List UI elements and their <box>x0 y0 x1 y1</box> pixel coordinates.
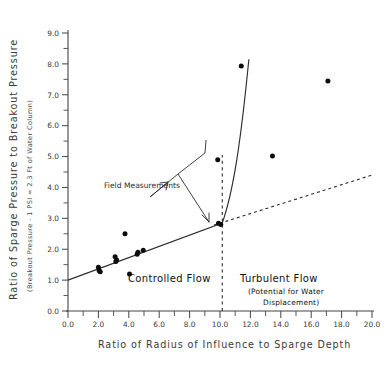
x-axis-title: Ratio of Radius of Influence to Sparge D… <box>98 339 351 350</box>
data-point <box>270 153 275 158</box>
chart-figure: 0.01.02.03.04.05.06.07.08.09.0 0.02.04.0… <box>0 0 386 372</box>
x-tick-label: 10.0 <box>212 320 229 329</box>
data-point <box>325 78 330 83</box>
x-tick-label: 14.0 <box>273 320 290 329</box>
x-tick-label: 12.0 <box>242 320 259 329</box>
x-tick-label: 20.0 <box>364 320 381 329</box>
x-tick-label: 0.0 <box>62 320 74 329</box>
data-point <box>98 269 103 274</box>
data-point <box>218 222 223 227</box>
controlled-flow-label: Controlled Flow <box>128 273 211 284</box>
x-tick-label: 16.0 <box>303 320 320 329</box>
turbulent-flow-sub-2: Displacement) <box>263 298 319 307</box>
x-tick-label: 18.0 <box>333 320 350 329</box>
data-point <box>215 157 220 162</box>
dotted-extension-line <box>214 175 372 225</box>
field-measurements-bracket <box>150 153 205 197</box>
x-axis-ticks <box>68 311 372 318</box>
y-axis-tick-labels: 0.01.02.03.04.05.06.07.08.09.0 <box>47 29 59 316</box>
data-point <box>123 231 128 236</box>
y-tick-label: 6.0 <box>47 121 59 130</box>
data-point <box>239 64 244 69</box>
y-axis-subtitle: (Breakout Pressure - 1 PSI = 2.3 Ft of W… <box>26 100 34 292</box>
scatter-plot-canvas: 0.01.02.03.04.05.06.07.08.09.0 0.02.04.0… <box>0 0 386 372</box>
x-tick-label: 2.0 <box>93 320 105 329</box>
turbulent-flow-label: Turbulent Flow <box>239 273 318 284</box>
data-point <box>114 258 119 263</box>
y-tick-label: 5.0 <box>47 152 59 161</box>
y-tick-label: 2.0 <box>47 245 59 254</box>
field-measurements-leader-2 <box>178 174 209 222</box>
data-point-group <box>96 64 331 277</box>
y-axis-title: Ratio of Sparge Pressure to Breakout Pre… <box>8 39 19 300</box>
y-tick-label: 9.0 <box>47 29 59 38</box>
y-tick-label: 4.0 <box>47 183 59 192</box>
x-axis-tick-labels: 0.02.04.06.08.010.012.014.016.018.020.0 <box>62 320 380 329</box>
y-tick-label: 1.0 <box>47 276 59 285</box>
axes <box>66 30 374 311</box>
y-tick-label: 8.0 <box>47 60 59 69</box>
field-measurements-label: Field Measurements <box>104 181 180 190</box>
y-axis-ticks <box>62 33 68 311</box>
x-tick-label: 6.0 <box>153 320 165 329</box>
turbulent-flow-sub-1: (Potential for Water <box>248 287 325 296</box>
x-tick-label: 8.0 <box>184 320 196 329</box>
data-point <box>135 250 140 255</box>
data-point <box>141 248 146 253</box>
field-measurements-arrowhead-2 <box>202 213 209 222</box>
y-tick-label: 3.0 <box>47 214 59 223</box>
x-tick-label: 4.0 <box>123 320 135 329</box>
y-tick-label: 7.0 <box>47 91 59 100</box>
field-measurements-leader-3 <box>205 140 206 153</box>
y-tick-label: 0.0 <box>47 307 59 316</box>
